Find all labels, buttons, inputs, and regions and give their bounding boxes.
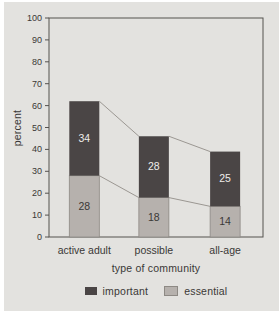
y-tick-label: 0: [37, 232, 42, 242]
value-label-important: 25: [219, 172, 231, 184]
y-tick-label: 90: [32, 35, 42, 45]
value-label-important: 34: [78, 132, 90, 144]
x-axis-title: type of community: [49, 262, 263, 274]
legend-item-essential: essential: [164, 285, 227, 297]
y-tick-label: 60: [32, 101, 42, 111]
legend-label: essential: [184, 285, 227, 297]
value-label-essential: 14: [219, 215, 231, 227]
y-axis-title: percent: [11, 110, 23, 146]
legend-swatch-important: [85, 287, 97, 295]
y-tick-label: 80: [32, 57, 42, 67]
legend: importantessential: [49, 285, 263, 297]
value-label-important: 28: [148, 160, 160, 172]
value-label-essential: 18: [148, 211, 160, 223]
connector-line-total: [169, 136, 210, 151]
y-tick-label: 50: [32, 123, 42, 133]
y-tick-label: 30: [32, 166, 42, 176]
y-tick-label: 40: [32, 144, 42, 154]
figure: 01020304050607080901003428active adult28…: [0, 0, 279, 319]
y-tick-label: 100: [27, 13, 42, 23]
connector-line-total: [99, 101, 139, 136]
legend-label: important: [103, 285, 149, 297]
legend-swatch-essential: [164, 286, 178, 296]
y-tick-label: 20: [32, 188, 42, 198]
connector-line-essential: [99, 176, 139, 198]
category-label: active adult: [58, 244, 111, 256]
y-tick-label: 70: [32, 79, 42, 89]
legend-item-important: important: [85, 285, 149, 297]
category-label: all-age: [209, 244, 241, 256]
connector-line-essential: [169, 198, 210, 207]
y-tick-label: 10: [32, 210, 42, 220]
value-label-essential: 28: [78, 200, 90, 212]
category-label: possible: [135, 244, 174, 256]
